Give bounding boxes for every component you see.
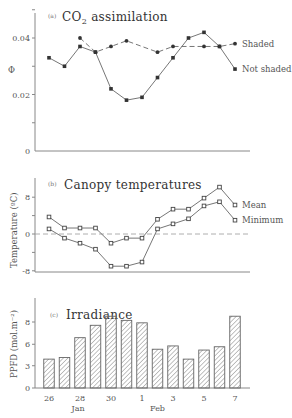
data-point — [171, 207, 175, 211]
data-point — [94, 226, 98, 230]
data-point — [78, 241, 82, 245]
panel-c-title: Irradiance — [66, 308, 133, 322]
figure: 00.020.04 (a) CO2 assimilation Φ ShadedN… — [0, 0, 292, 418]
x-tick-label: 30 — [106, 394, 116, 403]
legend-mean: Mean — [242, 200, 267, 210]
panel-b-series: MeanMinimum — [47, 185, 283, 268]
data-point — [140, 96, 144, 100]
y-tick-label: 0.02 — [12, 91, 30, 100]
data-point — [218, 200, 222, 204]
x-tick-label: 7 — [232, 394, 237, 403]
x-tick-label: 1 — [139, 394, 144, 403]
bar-1 — [137, 323, 148, 388]
data-point — [78, 36, 82, 40]
data-point — [109, 87, 113, 91]
panel-c-y-label: PPFD (mol.m⁻²) — [9, 310, 19, 378]
data-point — [47, 227, 51, 231]
bar-6 — [214, 347, 225, 388]
data-point — [156, 50, 160, 54]
y-tick-label: 0 — [25, 384, 30, 393]
data-point — [63, 226, 67, 230]
data-point — [202, 196, 206, 200]
data-point — [109, 264, 113, 268]
data-point — [233, 203, 237, 207]
y-tick-label: 3 — [25, 362, 30, 371]
data-point — [63, 64, 67, 68]
x-tick-label: 5 — [201, 394, 206, 403]
panel-a-y-label: Φ — [8, 65, 15, 75]
y-tick-label: 8 — [25, 318, 30, 327]
data-point — [140, 260, 144, 264]
panel-a-co2-assimilation: 00.020.04 (a) CO2 assimilation Φ ShadedN… — [8, 10, 292, 156]
panel-b-canopy-temperatures: -808 (b) Canopy temperatures Temperature… — [9, 178, 283, 276]
panel-a-title: CO2 assimilation — [62, 10, 168, 26]
bar-7 — [230, 316, 241, 388]
panel-b-y-ticks: -808 — [22, 193, 35, 276]
data-point — [109, 241, 113, 245]
data-point — [140, 236, 144, 240]
panel-c-tag: (c) — [50, 311, 58, 318]
legend-not-shaded: Not shaded — [242, 64, 292, 74]
x-tick-label: 26 — [44, 394, 54, 403]
data-point — [156, 227, 160, 231]
series-line-not-shaded — [49, 32, 235, 100]
bar-2 — [152, 349, 163, 388]
data-point — [125, 264, 129, 268]
legend-minimum: Minimum — [242, 215, 283, 225]
panel-b-y-label: Temperature (ºC) — [9, 192, 19, 268]
data-point — [233, 42, 237, 46]
y-tick-label: 0.04 — [12, 34, 30, 43]
data-point — [156, 217, 160, 221]
data-point — [202, 45, 206, 49]
month-label-jan: Jan — [70, 404, 84, 413]
bar-5 — [199, 350, 210, 388]
bar-28 — [75, 338, 86, 388]
series-line-shaded — [80, 38, 235, 52]
y-tick-label: -8 — [22, 267, 30, 276]
data-point — [94, 247, 98, 251]
panel-a-y-ticks: 00.020.04 — [12, 10, 35, 156]
y-tick-label: 8 — [25, 193, 30, 202]
data-point — [125, 236, 129, 240]
data-point — [187, 207, 191, 211]
x-tick-label: 3 — [170, 394, 175, 403]
bar-27 — [59, 357, 70, 388]
data-point — [78, 45, 82, 49]
data-point — [47, 215, 51, 219]
data-point — [171, 56, 175, 60]
bar-4 — [183, 359, 194, 388]
bar-31 — [121, 320, 132, 388]
data-point — [125, 39, 129, 43]
data-point — [63, 236, 67, 240]
panel-c-y-ticks: 0368 — [25, 318, 35, 393]
data-point — [78, 226, 82, 230]
data-point — [187, 217, 191, 221]
panel-c-irradiance: 0368 (c) Irradiance PPFD (mol.m⁻²) 26283… — [9, 298, 250, 413]
data-point — [171, 45, 175, 49]
data-point — [109, 45, 113, 49]
data-point — [47, 56, 51, 60]
data-point — [94, 50, 98, 54]
data-point — [202, 31, 206, 35]
panel-a-series: ShadedNot shaded — [47, 31, 292, 102]
panel-a-tag: (a) — [48, 12, 56, 19]
panel-c-x-ticks: 2628301357JanFeb — [44, 394, 238, 413]
panel-c-bars — [44, 316, 241, 388]
data-point — [233, 67, 237, 71]
y-tick-label: 0 — [25, 147, 30, 156]
panel-b-title: Canopy temperatures — [64, 178, 202, 192]
data-point — [218, 45, 222, 49]
panel-b-tag: (b) — [48, 180, 57, 187]
legend-shaded: Shaded — [242, 39, 275, 49]
data-point — [218, 185, 222, 189]
y-tick-label: 0 — [25, 230, 30, 239]
month-label-feb: Feb — [150, 404, 165, 413]
data-point — [202, 204, 206, 208]
series-line-mean — [49, 187, 235, 243]
data-point — [187, 36, 191, 40]
data-point — [156, 76, 160, 80]
data-point — [125, 98, 129, 102]
x-tick-label: 28 — [75, 394, 85, 403]
data-point — [233, 218, 237, 222]
bar-26 — [44, 359, 55, 388]
